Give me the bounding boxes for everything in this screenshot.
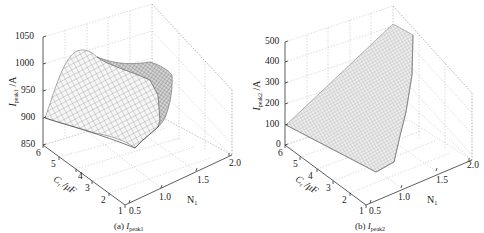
panel-a-xtick: 1.5 <box>197 176 209 186</box>
panel-b-caption: (b) Ipeak2 <box>355 222 385 232</box>
panel-b-ztick: 400 <box>265 57 279 67</box>
panel-a-caption-prefix: (a) <box>114 221 124 231</box>
panel-a-ztick: 900 <box>21 113 35 123</box>
panel-b-ytick: 1 <box>359 207 364 217</box>
panel-a-zlabel-var: I <box>7 103 18 106</box>
panel-b-xtick: 1.5 <box>436 176 448 186</box>
panel-b-zlabel-var: I <box>251 107 262 110</box>
panel-b-xlabel-sub: 1 <box>434 200 437 206</box>
panel-a-zlabel-unit: /A <box>7 76 18 86</box>
panel-a-ytick: 6 <box>36 149 41 159</box>
panel-a-ztick: 1050 <box>15 32 34 42</box>
panel-a-ytick: 2 <box>101 196 106 206</box>
panel-b-surface <box>286 24 413 172</box>
panel-a-ytick: 3 <box>85 184 90 194</box>
panel-a-xtick: 0.5 <box>129 207 141 217</box>
panel-a-ztick: 950 <box>21 86 35 96</box>
panel-a-xlabel: N1 <box>187 195 197 206</box>
panel-a-caption: (a) Ipeak1 <box>114 222 144 232</box>
panel-b-ztick: 300 <box>265 78 279 88</box>
panel-a-xlabel-sub: 1 <box>194 200 197 206</box>
panel-a-zlabel: Ipeak1 /A <box>8 67 19 117</box>
panel-a-ytick: 5 <box>51 160 56 170</box>
panel-b-caption-prefix: (b) <box>355 221 366 231</box>
panel-b-ytick: 6 <box>278 149 283 159</box>
panel-b-ytick: 3 <box>326 184 331 194</box>
panel-b-xlabel: N1 <box>427 195 437 206</box>
panel-b-zlabel-sub: peak2 <box>257 93 263 107</box>
panel-a-ytick: 1 <box>118 207 123 217</box>
panel-a-ztick: 850 <box>21 140 35 150</box>
panel-b-xtick: 0.5 <box>369 207 381 217</box>
figure-canvas <box>0 0 484 233</box>
panel-b-ytick: 5 <box>293 160 298 170</box>
panel-b-caption-sub: peak2 <box>371 226 385 232</box>
panel-b-xtick: 1.0 <box>398 193 410 203</box>
panel-b-ztick: 200 <box>265 99 279 109</box>
panel-b-xtick: 2.0 <box>467 161 479 171</box>
panel-b-ztick: 100 <box>265 120 279 130</box>
panel-a-zlabel-sub: peak1 <box>13 89 19 103</box>
panel-b-zlabel: Ipeak2 /A <box>252 71 263 121</box>
panel-a-ytick: 4 <box>78 172 83 182</box>
panel-b-ztick: 500 <box>265 37 279 47</box>
panel-a-xtick: 2.0 <box>229 159 241 169</box>
panel-a-xtick: 1.0 <box>159 193 171 203</box>
panel-b-zlabel-unit: /A <box>251 80 262 90</box>
panel-b-ytick: 2 <box>342 196 347 206</box>
panel-a-caption-sub: peak1 <box>129 226 143 232</box>
